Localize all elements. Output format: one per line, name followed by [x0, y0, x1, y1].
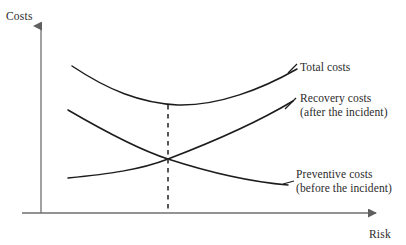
recovery-costs-curve	[68, 101, 293, 178]
recovery-costs-leader-line	[285, 98, 296, 109]
recovery-costs-label-line1: Recovery costs	[300, 92, 388, 106]
total-costs-label: Total costs	[300, 61, 350, 75]
x-axis-label: Risk	[369, 228, 391, 240]
preventive-costs-label-line1: Preventive costs	[296, 168, 392, 182]
preventive-costs-leader-line	[283, 181, 294, 184]
recovery-costs-label-line2: (after the incident)	[300, 106, 388, 120]
recovery-costs-label: Recovery costs (after the incident)	[300, 92, 388, 119]
total-costs-curve	[72, 66, 297, 105]
preventive-costs-label: Preventive costs (before the incident)	[296, 168, 392, 195]
y-axis-label: Costs	[6, 10, 33, 22]
costs-vs-risk-diagram	[0, 0, 406, 245]
total-costs-label-line1: Total costs	[300, 61, 350, 75]
preventive-costs-label-line2: (before the incident)	[296, 182, 392, 196]
